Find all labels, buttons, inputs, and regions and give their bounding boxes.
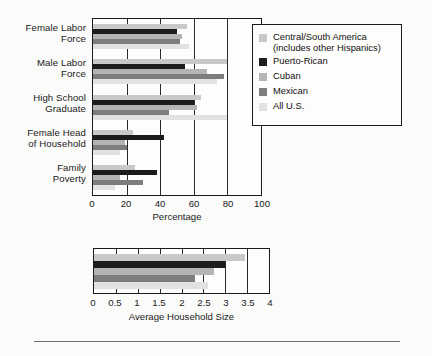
- figure-canvas: Female LaborForce Male LaborForce High S…: [0, 0, 432, 356]
- bottom-xtick-4: 4: [257, 297, 283, 308]
- legend-label-puerto-rican: Puerto-Rican: [273, 55, 328, 66]
- legend-label-central-south-america: Central/South America (includes other Hi…: [273, 31, 381, 53]
- top-gridline-80: [227, 19, 228, 195]
- legend-swatch-mexican: [259, 88, 267, 96]
- y-axis-label-high-school-graduate: High SchoolGraduate: [4, 92, 86, 115]
- top-xtick-100: 100: [249, 198, 275, 209]
- y-axis-label-female-labor-force: Female LaborForce: [4, 22, 86, 45]
- top-bar: [93, 44, 189, 49]
- legend-swatch-cuban: [259, 73, 267, 81]
- y-axis-label-female-head-of-household: Female Headof Household: [4, 127, 86, 150]
- legend-item-cuban[interactable]: Cuban: [259, 70, 396, 83]
- legend-item-central-south-america[interactable]: Central/South America (includes other Hi…: [259, 31, 396, 53]
- legend-swatch-puerto-rican: [259, 58, 267, 66]
- legend-label-cuban: Cuban: [273, 70, 301, 81]
- top-bar-chart-plot-area: [92, 18, 262, 196]
- top-xtick-80: 80: [215, 198, 241, 209]
- footer-divider: [34, 341, 400, 342]
- bottom-bar: [94, 254, 245, 261]
- top-bar: [93, 79, 217, 84]
- top-bar: [93, 185, 115, 190]
- top-xtick-0: 0: [79, 198, 105, 209]
- top-xtick-60: 60: [181, 198, 207, 209]
- legend-item-all-us[interactable]: All U.S.: [259, 100, 396, 113]
- bottom-bar: [94, 261, 225, 268]
- top-x-axis-title: Percentage: [92, 211, 262, 222]
- legend-swatch-central-south-america: [259, 34, 267, 42]
- bottom-bar: [94, 268, 214, 275]
- top-xtick-40: 40: [147, 198, 173, 209]
- legend-swatch-all-us: [259, 103, 267, 111]
- legend-label-mexican: Mexican: [273, 85, 308, 96]
- y-axis-label-male-labor-force: Male LaborForce: [4, 57, 86, 80]
- legend-item-mexican[interactable]: Mexican: [259, 85, 396, 98]
- bottom-x-axis-title: Average Household Size: [93, 311, 270, 322]
- legend-item-puerto-rican[interactable]: Puerto-Rican: [259, 55, 396, 68]
- bottom-bar: [94, 275, 195, 282]
- bottom-gridline-3.5: [247, 249, 248, 293]
- top-xtick-20: 20: [113, 198, 139, 209]
- bottom-bar-chart-plot-area: [93, 248, 270, 294]
- top-bar: [93, 115, 227, 120]
- y-axis-label-family-poverty: FamilyPoverty: [4, 162, 86, 185]
- legend-label-all-us: All U.S.: [273, 100, 304, 111]
- legend-box: Central/South America (includes other Hi…: [252, 24, 402, 126]
- bottom-bar: [94, 282, 208, 289]
- top-bar: [93, 150, 120, 155]
